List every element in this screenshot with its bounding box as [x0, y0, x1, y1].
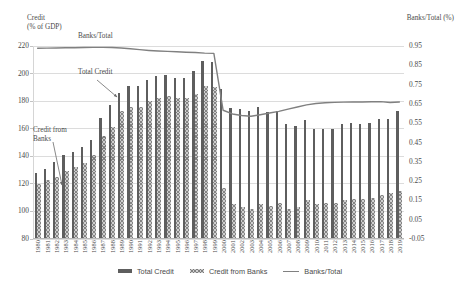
legend-swatch-credit-from-banks — [190, 269, 204, 273]
chart-legend: Total Credit Credit from Banks Banks/Tot… — [0, 266, 460, 276]
credit-to-gdp-chart: Credit (% of GDP) Banks/Total (%) 801001… — [0, 0, 460, 288]
legend-label-total-credit: Total Credit — [137, 267, 174, 276]
legend-item-banks-total: Banks/Total — [283, 266, 342, 276]
legend-label-banks-total: Banks/Total — [304, 267, 342, 276]
legend-swatch-banks-total — [283, 271, 299, 272]
legend-item-credit-from-banks: Credit from Banks — [190, 266, 267, 276]
annotation-leader-lines — [0, 0, 460, 288]
legend-label-credit-from-banks: Credit from Banks — [209, 267, 267, 276]
legend-item-total-credit: Total Credit — [118, 266, 174, 276]
legend-swatch-total-credit — [118, 269, 132, 273]
